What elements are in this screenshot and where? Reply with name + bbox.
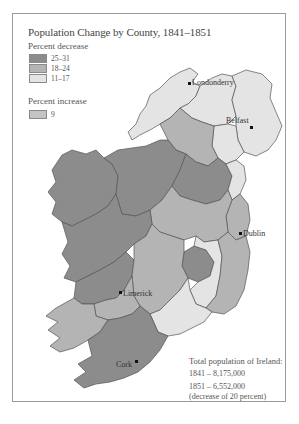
city-dot-limerick xyxy=(119,291,122,294)
city-label-belfast: Belfast xyxy=(226,116,249,125)
totals-1841: 1841 – 8,175,000 xyxy=(189,369,245,378)
city-dot-dublin xyxy=(239,232,242,235)
city-label-cork: Cork xyxy=(116,360,132,369)
totals-heading: Total population of Ireland: xyxy=(189,356,283,366)
city-dot-cork xyxy=(135,360,138,363)
city-label-limerick: Limerick xyxy=(123,289,152,298)
city-label-dublin: Dublin xyxy=(243,229,265,238)
city-dot-belfast xyxy=(250,126,253,129)
city-label-londonderry: Londonderry xyxy=(192,78,234,87)
city-dot-londonderry xyxy=(188,82,191,85)
totals-note: (decrease of 20 percent) xyxy=(189,392,266,401)
totals-1851: 1851 – 6,552,000 xyxy=(189,382,245,391)
